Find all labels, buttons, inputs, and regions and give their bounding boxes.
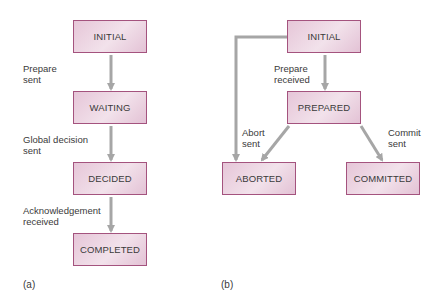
state-initial-a: INITIAL: [73, 20, 147, 53]
label-prepare-received: Prepare received: [274, 63, 310, 85]
state-completed: COMPLETED: [73, 233, 147, 266]
label-commit-sent: Commit sent: [388, 127, 421, 149]
state-initial-b: INITIAL: [287, 20, 361, 53]
state-committed: COMMITTED: [346, 162, 420, 195]
state-decided: DECIDED: [73, 162, 147, 195]
label-abort-sent: Abort sent: [242, 127, 265, 149]
label-prepare-sent: Prepare sent: [23, 63, 57, 85]
arrow-prepared-aborted: [262, 126, 289, 160]
state-aborted: ABORTED: [222, 162, 296, 195]
caption-a: (a): [23, 279, 35, 290]
state-waiting: WAITING: [73, 91, 147, 124]
caption-b: (b): [221, 279, 233, 290]
label-acknowledgement-received: Acknowledgement received: [23, 205, 101, 227]
state-prepared: PREPARED: [287, 91, 361, 124]
label-global-decision-sent: Global decision sent: [23, 134, 88, 156]
arrow-prepared-committed: [361, 126, 382, 160]
